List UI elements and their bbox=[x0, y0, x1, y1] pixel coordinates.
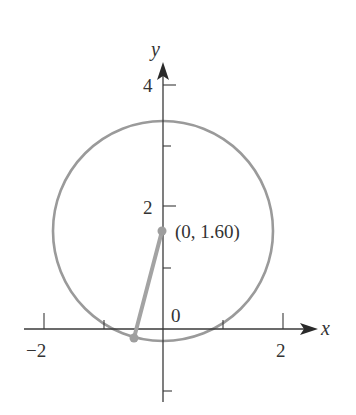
x-axis-label: x bbox=[320, 317, 330, 339]
y-tick-label-4: 4 bbox=[143, 75, 153, 96]
x-tick-label-2: 2 bbox=[276, 340, 286, 361]
circle-diagram: y x 4 2 −2 2 0 (0, 1.60) bbox=[0, 0, 356, 415]
center-point bbox=[158, 227, 167, 236]
y-axis-label: y bbox=[149, 38, 160, 61]
radius-segment bbox=[134, 231, 162, 338]
x-tick-label-neg2: −2 bbox=[26, 340, 46, 361]
point-label: (0, 1.60) bbox=[175, 221, 240, 243]
circle-point bbox=[130, 334, 139, 343]
origin-label: 0 bbox=[171, 305, 181, 326]
y-tick-label-2: 2 bbox=[143, 197, 153, 218]
